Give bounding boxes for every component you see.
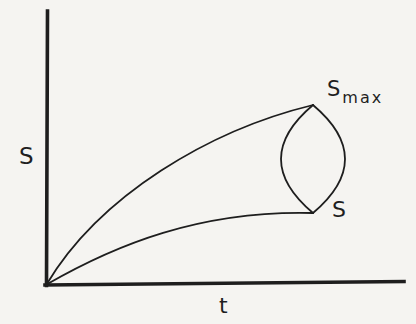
lens-left-arc: [281, 105, 313, 213]
smax-annotation: Smax: [327, 79, 381, 100]
y-axis-label: S: [19, 145, 34, 168]
plot-canvas: [0, 0, 416, 324]
y-axis: [47, 11, 48, 286]
s-annotation: S: [332, 199, 346, 221]
x-axis: [45, 282, 404, 286]
figure: S t Smax S: [0, 0, 416, 324]
upper-curve: [47, 105, 314, 285]
smax-subscript: max: [342, 90, 383, 106]
lower-curve: [47, 213, 314, 285]
smax-base-text: S: [327, 77, 340, 101]
x-axis-label: t: [219, 295, 228, 317]
